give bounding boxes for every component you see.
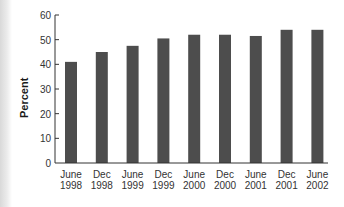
y-tick-label: 0 [45,158,51,169]
y-tick-label: 30 [40,84,52,95]
x-tick-label: June [60,169,82,180]
bar [127,46,139,163]
bar [311,30,323,163]
x-tick-label: June [122,169,144,180]
bar [281,30,293,163]
bar [250,36,262,163]
x-tick-label: 1998 [91,180,114,191]
x-tick-label: 2001 [245,180,268,191]
x-tick-label: June [245,169,267,180]
bar [219,35,231,163]
x-tick-label: 1998 [60,180,83,191]
y-axis: 0102030405060 [40,10,59,169]
x-axis: June1998Dec1998June1999Dec1999June2000De… [55,163,329,191]
bar-chart: 0102030405060 June1998Dec1998June1999Dec… [0,0,344,207]
y-tick-label: 40 [40,59,52,70]
bar [96,52,108,163]
x-tick-label: June [307,169,329,180]
x-tick-label: 1999 [121,180,144,191]
y-tick-label: 60 [40,10,52,21]
x-tick-label: Dec [155,169,173,180]
bar [65,62,77,163]
y-tick-label: 50 [40,35,52,46]
y-tick-label: 10 [40,133,52,144]
bar [188,35,200,163]
x-tick-label: 1999 [152,180,175,191]
x-tick-label: 2000 [214,180,237,191]
x-tick-label: June [183,169,205,180]
bar-series [65,30,323,163]
y-axis-label: Percent [18,78,30,118]
x-tick-label: 2000 [183,180,206,191]
x-tick-label: 2001 [275,180,298,191]
x-tick-label: Dec [216,169,234,180]
x-tick-label: Dec [278,169,296,180]
y-tick-label: 20 [40,109,52,120]
bar [157,38,169,163]
x-tick-label: Dec [93,169,111,180]
x-tick-label: 2002 [306,180,329,191]
